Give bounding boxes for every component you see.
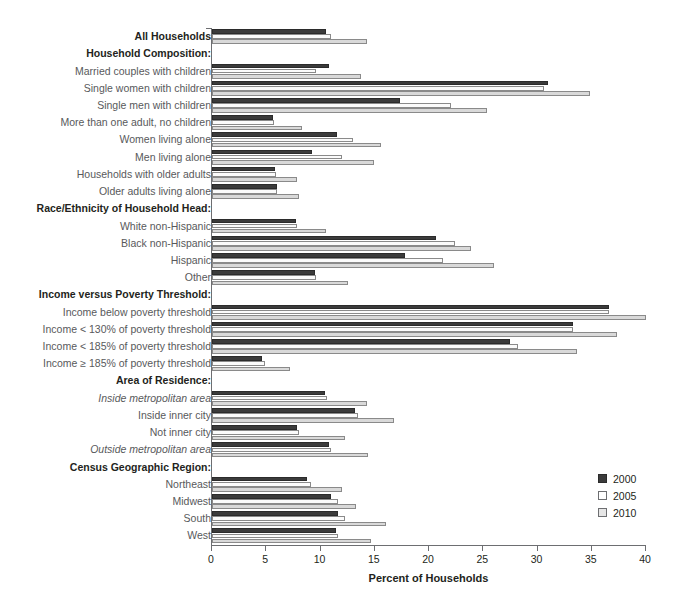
bar-2000 [212, 339, 510, 344]
chart-row: More than one adult, no children [0, 114, 685, 131]
bar-2000 [212, 132, 337, 137]
row-label: Midwest [6, 496, 211, 507]
row-label: White non-Hispanic [6, 221, 211, 232]
bar-2005 [212, 103, 451, 108]
bar-2000 [212, 528, 336, 533]
chart-row: Households with older adults [0, 166, 685, 183]
bar-2000 [212, 167, 275, 172]
bar-2010 [212, 367, 290, 372]
bar-2010 [212, 246, 471, 251]
bar-group [212, 253, 646, 269]
bar-group [212, 184, 646, 200]
bar-group [212, 81, 646, 97]
x-axis-tick-label: 30 [517, 553, 557, 565]
bar-2005 [212, 241, 455, 246]
bar-2000 [212, 270, 315, 275]
chart-rows: All HouseholdsHousehold Composition:Marr… [0, 28, 685, 545]
legend-item-2010: 2010 [598, 504, 636, 521]
x-axis-tick [537, 546, 538, 551]
row-label: South [6, 513, 211, 524]
chart-row: Income < 130% of poverty threshold [0, 321, 685, 338]
bar-group [212, 132, 646, 148]
bar-2005 [212, 413, 358, 418]
x-axis-tick-label: 10 [300, 553, 340, 565]
bar-2000 [212, 511, 338, 516]
x-axis-tick-label: 15 [354, 553, 394, 565]
bar-group [212, 477, 646, 493]
bar-2000 [212, 477, 307, 482]
bar-group [212, 425, 646, 441]
bar-2010 [212, 194, 299, 199]
chart-row: Hispanic [0, 252, 685, 269]
row-label: Outside metropolitan area [6, 444, 211, 455]
chart-row: White non-Hispanic [0, 217, 685, 234]
bar-group [212, 511, 646, 527]
bar-2010 [212, 349, 577, 354]
bar-2010 [212, 418, 394, 423]
bar-2000 [212, 408, 355, 413]
legend-label: 2000 [613, 473, 636, 485]
chart-row: Income below poverty threshold [0, 304, 685, 321]
bar-2000 [212, 442, 329, 447]
bar-2000 [212, 29, 326, 34]
chart-row: Single women with children [0, 80, 685, 97]
bar-2005 [212, 120, 274, 125]
x-axis-tick-label: 20 [408, 553, 448, 565]
bar-2005 [212, 275, 316, 280]
chart-row: Inside metropolitan area [0, 390, 685, 407]
bar-2000 [212, 253, 405, 258]
bar-2000 [212, 98, 400, 103]
bar-2000 [212, 305, 609, 310]
bar-group [212, 408, 646, 424]
bar-2010 [212, 504, 356, 509]
bar-2005 [212, 448, 331, 453]
bar-group [212, 528, 646, 544]
legend-label: 2010 [613, 507, 636, 519]
legend-swatch-icon [598, 474, 607, 483]
bar-2005 [212, 534, 338, 539]
bar-group [212, 391, 646, 407]
bar-group [212, 150, 646, 166]
chart-row: South [0, 510, 685, 527]
bar-2010 [212, 332, 617, 337]
bar-2010 [212, 315, 646, 320]
chart-section-header: Income versus Poverty Threshold: [0, 286, 685, 303]
bar-2000 [212, 322, 573, 327]
row-label: Income ≥ 185% of poverty threshold [6, 358, 211, 369]
chart-row: Women living alone [0, 131, 685, 148]
x-axis-tick-label: 40 [625, 553, 665, 565]
chart-page: 0510152025303540 Percent of Households A… [0, 0, 685, 608]
bar-2005 [212, 327, 573, 332]
x-axis-tick-label: 5 [245, 553, 285, 565]
bar-2005 [212, 258, 443, 263]
row-label: Area of Residence: [6, 375, 211, 386]
x-axis-tick-label: 35 [571, 553, 611, 565]
bar-2000 [212, 115, 273, 120]
bar-2000 [212, 356, 262, 361]
chart-row: Outside metropolitan area [0, 441, 685, 458]
bar-2000 [212, 81, 548, 86]
legend-swatch-icon [598, 491, 607, 500]
chart-row: Black non-Hispanic [0, 235, 685, 252]
bar-group [212, 98, 646, 114]
chart-row: Married couples with children [0, 62, 685, 79]
x-axis-tick [645, 546, 646, 551]
bar-group [212, 219, 646, 235]
chart-row: West [0, 527, 685, 544]
bar-2005 [212, 189, 277, 194]
bar-2005 [212, 172, 276, 177]
row-label: Older adults living alone [6, 186, 211, 197]
bar-group [212, 339, 646, 355]
bar-2005 [212, 344, 518, 349]
bar-2010 [212, 160, 374, 165]
bar-group [212, 29, 646, 45]
bar-2010 [212, 436, 345, 441]
bar-2010 [212, 143, 381, 148]
row-label: Men living alone [6, 152, 211, 163]
legend-item-2005: 2005 [598, 487, 636, 504]
bar-group [212, 167, 646, 183]
bar-2005 [212, 361, 265, 366]
bar-2005 [212, 482, 311, 487]
bar-2010 [212, 39, 367, 44]
bar-group [212, 236, 646, 252]
